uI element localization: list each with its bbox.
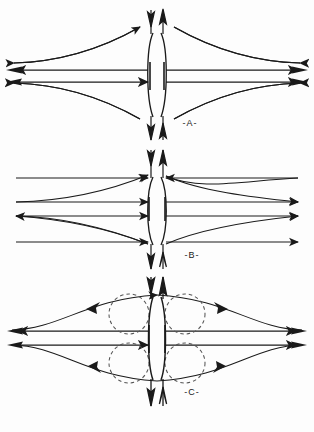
carrowhead-left-upper	[7, 328, 23, 335]
bsep-lower-right	[166, 216, 298, 244]
panel-a-vertical-arrows-bottom	[148, 116, 167, 140]
varrow-top-right-head	[160, 9, 167, 24]
panel-b-label: -B-	[185, 250, 200, 260]
cenv-head-ul	[86, 302, 100, 314]
panel-c-envelope-heads	[86, 302, 228, 373]
bsep-upper-left	[16, 175, 148, 202]
cenv-head-ur	[214, 302, 228, 314]
bsep-lower-left-2	[16, 216, 148, 244]
envelope-upper-left	[14, 27, 140, 63]
bvarrow-top-right-head	[160, 150, 167, 165]
panel-c-horizontal-lines	[18, 331, 296, 345]
panel-a-svg: -A-	[0, 0, 314, 145]
panel-b-central-channel	[148, 177, 167, 245]
panel-b-vertical-arrows-bottom	[148, 244, 167, 269]
panel-c-vertical-arrows-bottom	[147, 379, 166, 406]
envelope-lower-right-head	[174, 83, 300, 119]
varrow-bottom-right-head	[160, 123, 167, 138]
panel-c-envelope	[12, 295, 302, 381]
panel-a-vertical-arrows-top	[148, 9, 167, 34]
dashed-circle-lower-right	[165, 343, 205, 383]
cenv-lower-right	[157, 345, 302, 381]
cvarrow-top-right-head	[159, 277, 166, 295]
panel-b-fieldlines	[16, 175, 298, 244]
cenv-upper-left	[12, 295, 157, 330]
panel-b-vertical-arrows-top	[148, 150, 167, 178]
panel-a-plates	[150, 62, 164, 90]
envelope-upper-right-head	[174, 27, 300, 63]
varrow-top-left-head	[148, 12, 155, 27]
bsep-lower-left	[16, 216, 148, 244]
panel-b-svg: -B-	[0, 145, 314, 275]
varrow-bottom-left-head	[148, 125, 155, 140]
diagram-panel-b: -B-	[0, 145, 314, 275]
dashed-circle-upper-left	[109, 294, 149, 334]
panel-c-label: -C-	[184, 387, 200, 397]
envelope-lower-left	[14, 83, 140, 119]
cenv-upper-right	[157, 295, 302, 330]
carrowhead-left-lower	[7, 342, 23, 349]
panel-c-central-channel	[149, 297, 166, 380]
cenv-head-lr	[213, 361, 226, 373]
arrowhead-right-lower	[292, 79, 308, 86]
dashed-circle-upper-right	[165, 294, 205, 334]
panel-c-svg: -C-	[0, 275, 314, 432]
envelope-lower-left-head	[14, 83, 140, 119]
bsep-upper-right-2	[166, 176, 298, 202]
diagram-panel-c: -C-	[0, 275, 314, 432]
cenv-lower-left	[12, 345, 157, 381]
panel-a-outer-heads	[6, 67, 308, 86]
panel-c-plates	[149, 325, 165, 353]
cvarrow-bottom-left-head	[147, 389, 154, 406]
arrowhead-left-upper	[6, 67, 22, 74]
carrowhead-right-upper	[291, 328, 307, 335]
arrowhead-right-upper	[292, 67, 308, 74]
diagram-panel-a: -A-	[0, 0, 314, 145]
bvarrow-bottom-left-head	[148, 254, 155, 269]
cenv-head-ll	[88, 361, 101, 373]
dashed-circle-lower-left	[109, 343, 149, 383]
figure-root: -A-	[0, 0, 314, 432]
cvarrow-top-left-head	[147, 278, 154, 294]
panel-a-label: -A-	[183, 118, 198, 128]
envelope-upper-right	[174, 27, 300, 63]
panel-b-plates	[149, 197, 165, 221]
carrowhead-right-lower	[291, 342, 307, 349]
panel-c-dashed-islands	[109, 294, 205, 383]
bvarrow-top-left-head	[148, 151, 155, 166]
envelope-upper-left-head	[14, 27, 140, 63]
envelope-lower-right	[174, 83, 300, 119]
panel-a-fieldlines	[14, 27, 300, 119]
arrowhead-left-lower	[6, 79, 22, 86]
panel-a-horizontal-lines	[16, 70, 298, 82]
